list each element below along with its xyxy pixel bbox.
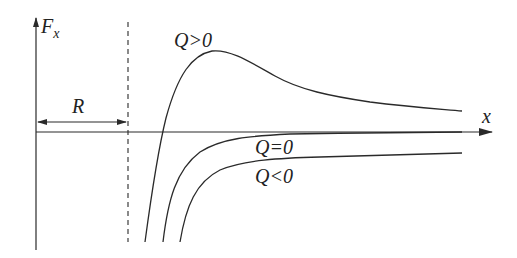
curve-q-positive [145, 51, 462, 242]
curve-label-q-positive: Q>0 [174, 29, 212, 51]
x-axis-label: x [481, 105, 491, 127]
curve-label-q-zero: Q=0 [255, 136, 293, 158]
curve-q-negative [180, 153, 462, 242]
curve-q-zero [163, 132, 462, 242]
curve-label-q-negative: Q<0 [255, 165, 293, 187]
force-diagram: Fx x R Q>0 Q=0 Q<0 [0, 0, 517, 258]
radius-label: R [71, 95, 84, 117]
y-axis-label: Fx [40, 15, 60, 41]
